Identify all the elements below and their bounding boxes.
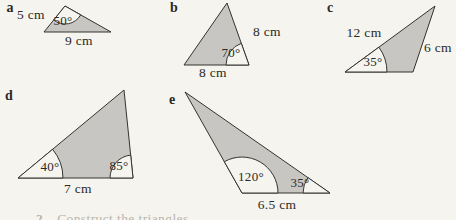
- footer-exercise-number: 2: [36, 211, 43, 220]
- triangle-d-side-base-label: 7 cm: [64, 181, 92, 197]
- triangle-a-side-left-label: 5 cm: [17, 7, 45, 23]
- triangle-a-side-base-label: 9 cm: [65, 33, 93, 49]
- triangle-d-right-angle-label: 85°: [109, 158, 128, 174]
- worksheet-page: a b c d e 5 cm 50° 9 cm 8 cm 70° 8 cm 12…: [0, 0, 456, 220]
- figure-label-d: d: [5, 88, 13, 104]
- triangle-e-left-angle-label: 120°: [238, 169, 264, 185]
- triangle-a-angle-label: 50°: [53, 13, 72, 29]
- footer-text-fragment: Construct the triangles: [57, 211, 188, 220]
- triangle-b-angle-label: 70°: [221, 45, 240, 61]
- triangle-b-side-base-label: 8 cm: [199, 65, 227, 81]
- triangle-e-right-angle-label: 35°: [290, 175, 309, 191]
- triangle-c-side-top-label: 12 cm: [347, 25, 382, 41]
- triangle-c-angle-label: 35°: [363, 54, 382, 70]
- figure-label-c: c: [327, 0, 333, 16]
- figure-label-e: e: [169, 92, 175, 108]
- cropped-footer-text: 2Construct the triangles: [36, 211, 189, 220]
- triangle-e-side-base-label: 6.5 cm: [258, 197, 297, 213]
- triangle-c-side-right-label: 6 cm: [424, 40, 452, 56]
- figure-label-b: b: [170, 0, 178, 16]
- triangle-d-left-angle-label: 40°: [40, 159, 59, 175]
- figure-label-a: a: [7, 0, 14, 16]
- triangle-b-side-right-label: 8 cm: [253, 24, 281, 40]
